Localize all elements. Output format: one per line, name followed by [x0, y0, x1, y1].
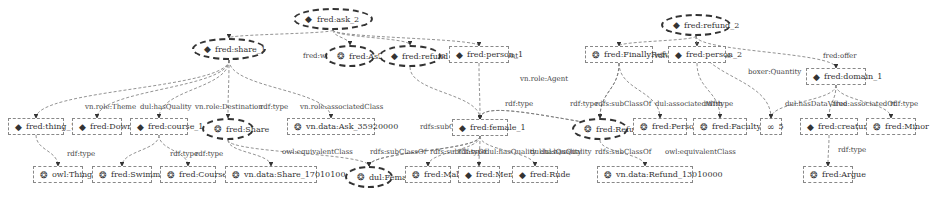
gear-icon: ❂	[873, 123, 881, 131]
graph-node[interactable]: ◆fred:female_1	[452, 119, 508, 136]
graph-node[interactable]: ❂fred:Person	[633, 118, 687, 135]
graph-node[interactable]: ◆fred:Down	[72, 118, 122, 135]
node-label: fred:thing_1	[26, 122, 76, 131]
edge-label: owl:equivalentClass	[665, 148, 736, 156]
graph-node[interactable]: ❂vn.data:Share_17010100	[225, 166, 317, 183]
node-label: owl:Thing	[52, 170, 92, 179]
edge-label: vn.role:Destination	[195, 103, 263, 111]
graph-node[interactable]: ◆fred:Rude	[512, 166, 558, 183]
graph-node[interactable]: ◆fred:Men	[458, 166, 500, 183]
diamond-icon: ◆	[305, 15, 313, 23]
edge-label: rdf:type	[838, 146, 866, 154]
graph-node[interactable]: ∞5	[760, 118, 782, 135]
graph-node[interactable]: ❂vn.data:Refund_13010000	[597, 166, 693, 183]
graph-edge	[228, 140, 271, 166]
gear-icon: ❂	[232, 171, 240, 179]
graph-node[interactable]: ❂fred:Share	[202, 118, 254, 140]
graph-node[interactable]: ◆fred:ask_2	[293, 8, 373, 30]
graph-edge	[122, 135, 159, 166]
edge-label: rdfs:subClassOf	[595, 148, 651, 156]
node-label: fred:Course	[179, 170, 227, 179]
edge-label: owl:equivalentClass	[282, 148, 353, 156]
graph-node[interactable]: ❂fred:Male	[405, 166, 451, 183]
graph-node[interactable]: ❂fred:Minor	[866, 118, 916, 135]
graph-node[interactable]: ◆fred:creature_2	[800, 118, 858, 135]
edge-label: rdfs:subClassOf	[430, 148, 486, 156]
node-label: fred:Argue	[822, 170, 866, 179]
graph-edge	[36, 135, 58, 166]
node-label: fred:refund_2	[684, 21, 739, 30]
graph-edge	[410, 67, 480, 119]
graph-edge	[828, 135, 829, 166]
graph-edge	[479, 63, 480, 119]
graph-node[interactable]: ❂fred:Ask	[325, 45, 375, 67]
node-label: fred:Person	[652, 122, 699, 131]
graph-node[interactable]: ❂fred:FinallyRefund	[585, 46, 653, 63]
gear-icon: ❂	[357, 173, 365, 181]
gear-icon: ❂	[40, 171, 48, 179]
diamond-icon: ◆	[673, 21, 680, 29]
gear-icon: ❂	[604, 171, 612, 179]
diamond-icon: ◆	[15, 123, 22, 131]
edge-label: rdf:type	[170, 150, 198, 158]
node-label: vn.data:Share_17010100	[244, 170, 345, 179]
node-label: fred:Ask	[349, 52, 383, 61]
graph-node[interactable]: ❂fred:Course	[160, 166, 216, 183]
graph-node[interactable]: ◆fred:refund_2	[661, 14, 731, 36]
graph-node[interactable]: ❂fred:Faculty	[693, 118, 747, 135]
node-label: fred:share_1	[215, 45, 266, 54]
graph-node[interactable]: ◆fred:person_2	[668, 46, 726, 63]
node-label: fred:female_1	[470, 123, 526, 132]
graph-node[interactable]: ◆fred:share_1	[192, 38, 266, 60]
node-label: fred:ask_2	[317, 15, 359, 24]
gear-icon: ❂	[640, 123, 648, 131]
graph-node[interactable]: ❂owl:Thing	[33, 166, 83, 183]
edge-label: vn.role:associatedClass	[300, 103, 383, 111]
graph-node[interactable]: ❂fred:Argue	[803, 166, 853, 183]
diamond-icon: ◆	[813, 73, 820, 81]
gear-icon: ❂	[99, 171, 107, 179]
edge-label: rdfs:subClassOf	[595, 100, 651, 108]
diamond-icon: ◆	[465, 171, 472, 179]
node-label: fred:person_2	[686, 50, 742, 59]
diamond-icon: ◆	[807, 123, 814, 131]
node-label: fred:Down	[90, 122, 133, 131]
node-label: fred:Faculty	[712, 122, 761, 131]
node-label: fred:Rude	[530, 170, 570, 179]
gear-icon: ❂	[294, 123, 302, 131]
graph-edge	[229, 30, 333, 38]
node-label: fred:Minor	[885, 122, 929, 131]
graph-node[interactable]: ❂fred:Swimming	[92, 166, 152, 183]
graph-node[interactable]: ❂vn.data:Ask_35920000	[287, 118, 375, 135]
graph-node[interactable]: ◆fred:course_1	[130, 118, 188, 135]
node-label: fred:course_1	[148, 122, 204, 131]
edge-label: rdfs:subClassOf	[370, 148, 426, 156]
gear-icon: ❂	[214, 125, 222, 133]
graph-node[interactable]: ❂fred:Refund	[572, 118, 628, 140]
diamond-icon: ◆	[137, 123, 144, 131]
node-label: fred:domain_1	[824, 72, 882, 81]
graph-node[interactable]: ◆fred:domain_1	[806, 68, 866, 85]
gear-icon: ❂	[584, 125, 592, 133]
edge-label: rdf:type	[705, 100, 733, 108]
diamond-icon: ◆	[456, 51, 463, 59]
gear-icon: ❂	[700, 123, 708, 131]
graph-node[interactable]: ◆fred:thing_1	[8, 118, 64, 135]
edge-label: rdf:type	[195, 150, 223, 158]
node-label: fred:Men	[476, 170, 513, 179]
graph-node[interactable]: ◆fred:refund_1	[379, 45, 441, 67]
gear-icon: ❂	[412, 171, 420, 179]
edge-label: rdf:type	[570, 100, 598, 108]
edge-label: vn.role:Theme	[85, 103, 136, 111]
gear-icon: ❂	[810, 171, 818, 179]
graph-node[interactable]: ❂dul:Female	[345, 166, 393, 188]
infinity-icon: ∞	[767, 123, 775, 131]
graph-edge	[619, 36, 696, 46]
graph-edge	[619, 63, 660, 118]
gear-icon: ❂	[167, 171, 175, 179]
graph-edge	[600, 63, 619, 118]
edge-label: boxer:Quantity	[748, 68, 801, 76]
graph-node[interactable]: ◆fred:person_1	[449, 46, 509, 63]
edge-label: fred:offer	[823, 52, 857, 60]
graph-edge	[333, 30, 350, 45]
